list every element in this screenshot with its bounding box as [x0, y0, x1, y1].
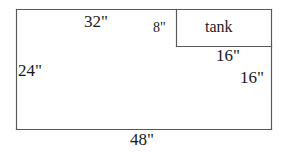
tank-region-label: tank — [205, 19, 233, 35]
dimension-label-right-height: 16" — [240, 69, 264, 86]
dimension-label-tank-width: 16" — [216, 47, 240, 64]
dimension-label-top-width: 32" — [84, 13, 108, 30]
dimension-label-tank-height: 8" — [153, 21, 166, 35]
dimension-label-left-height: 24" — [18, 62, 42, 79]
geometry-figure: 32" 8" tank 16" 16" 24" 48" — [0, 0, 285, 156]
dimension-label-bottom-width: 48" — [130, 131, 154, 148]
